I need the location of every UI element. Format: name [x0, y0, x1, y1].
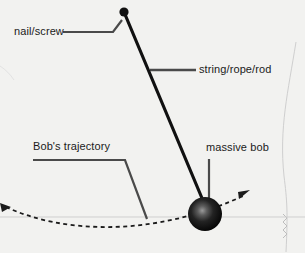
- trajectory-arrowhead-left: [0, 203, 11, 212]
- label-bob-trajectory: Bob's trajectory: [33, 141, 110, 152]
- leader-line-nail-screw: [63, 20, 122, 32]
- background-sketch-curve-left: [0, 66, 14, 80]
- pendulum-diagram: nail/screw string/rope/rod massive bob B…: [0, 0, 305, 253]
- background-sketch-squiggle: [283, 214, 287, 238]
- diagram-canvas: [0, 0, 305, 253]
- label-string-rope-rod: string/rope/rod: [199, 64, 271, 75]
- label-massive-bob: massive bob: [206, 142, 269, 153]
- label-nail-screw: nail/screw: [14, 26, 64, 37]
- leader-line-trajectory: [33, 160, 147, 219]
- pendulum-bob: [188, 197, 222, 231]
- trajectory-arrowhead-right: [238, 190, 250, 199]
- pivot-point: [119, 7, 128, 16]
- pendulum-string: [124, 12, 204, 203]
